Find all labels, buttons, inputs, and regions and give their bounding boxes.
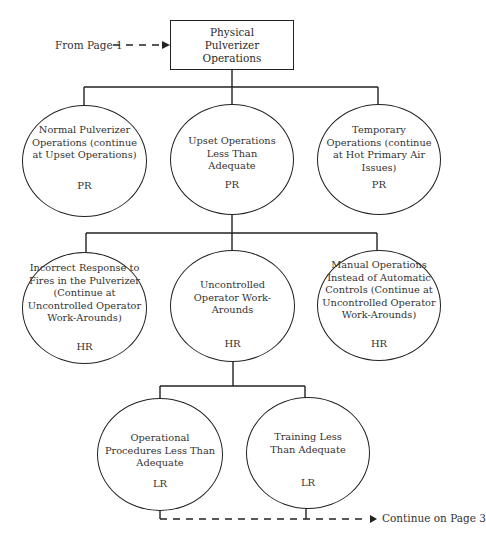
- node-label: Operational Procedures Less Than Adequat…: [102, 432, 218, 470]
- node-label: Normal Pulverizer Operations (continue a…: [29, 124, 140, 162]
- node-label: Incorrect Response to Fires in the Pulve…: [27, 262, 142, 325]
- outgoing-dashed-arrow: [160, 515, 377, 523]
- node-rating: HR: [171, 338, 294, 349]
- node-rating: HR: [23, 341, 146, 352]
- node-training: Training Less Than Adequate LR: [246, 397, 370, 509]
- root-label: Physical Pulverizer Operations: [185, 26, 279, 65]
- node-rating: HR: [318, 338, 440, 349]
- node-label: Temporary Operations (continue at Hot Pr…: [324, 124, 434, 174]
- node-rating: PR: [171, 179, 293, 190]
- node-rating: LR: [98, 478, 222, 489]
- node-operational-procedures: Operational Procedures Less Than Adequat…: [97, 398, 223, 511]
- node-rating: PR: [318, 179, 440, 190]
- node-uncontrolled-operator-work-arounds: Uncontrolled Operator Work-Arounds HR: [170, 250, 295, 362]
- from-page-label: From Page 1: [55, 39, 123, 51]
- continue-page-label: Continue on Page 3: [382, 512, 486, 524]
- node-rating: PR: [23, 180, 146, 191]
- node-label: Upset Operations Less Than Adequate: [183, 135, 281, 173]
- node-label: Manual Operations Instead of Automatic C…: [322, 259, 436, 322]
- node-upset-operations: Upset Operations Less Than Adequate PR: [170, 104, 294, 215]
- node-manual-operations: Manual Operations Instead of Automatic C…: [317, 250, 441, 361]
- node-incorrect-response-to-fires: Incorrect Response to Fires in the Pulve…: [22, 252, 147, 364]
- node-label: Uncontrolled Operator Work-Arounds: [181, 279, 284, 317]
- node-normal-pulverizer-operations: Normal Pulverizer Operations (continue a…: [22, 105, 147, 217]
- root-node: Physical Pulverizer Operations: [170, 20, 294, 70]
- node-temporary-operations: Temporary Operations (continue at Hot Pr…: [317, 104, 441, 215]
- node-rating: LR: [247, 477, 369, 488]
- node-label: Training Less Than Adequate: [261, 431, 355, 456]
